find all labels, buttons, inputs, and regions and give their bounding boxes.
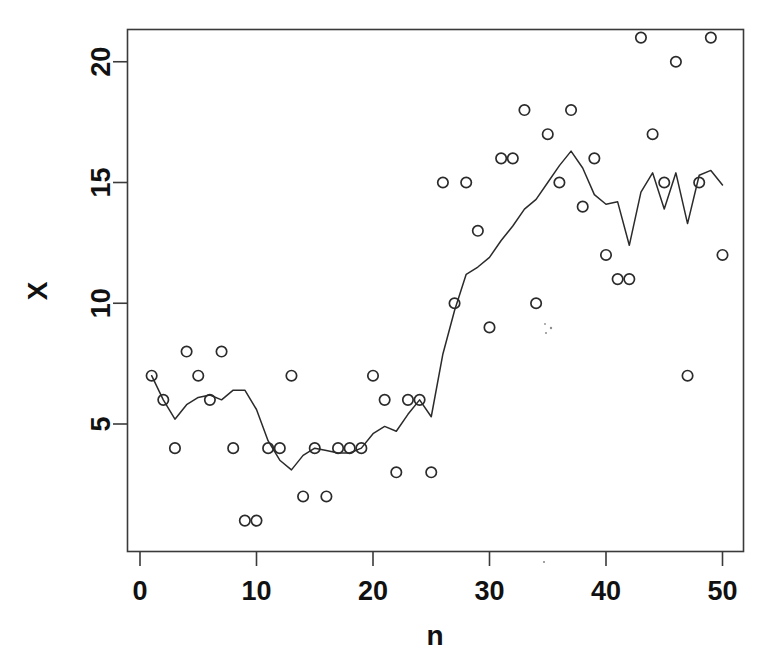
data-point bbox=[298, 491, 308, 501]
data-point bbox=[240, 515, 250, 525]
data-point bbox=[659, 177, 669, 187]
data-point bbox=[391, 467, 401, 477]
x-tick-label-40: 40 bbox=[591, 576, 621, 606]
data-point bbox=[484, 322, 494, 332]
data-point bbox=[193, 371, 203, 381]
data-point bbox=[181, 346, 191, 356]
data-point bbox=[578, 201, 588, 211]
data-point bbox=[554, 177, 564, 187]
y-tick-label-15: 15 bbox=[86, 167, 116, 197]
data-point bbox=[601, 250, 611, 260]
data-point bbox=[368, 371, 378, 381]
y-tick-label-10: 10 bbox=[86, 288, 116, 318]
data-point bbox=[461, 177, 471, 187]
data-point bbox=[589, 153, 599, 163]
data-point bbox=[694, 177, 704, 187]
y-axis-tick-labels: 5101520 bbox=[86, 47, 116, 432]
data-point bbox=[345, 443, 355, 453]
data-point bbox=[216, 346, 226, 356]
data-point bbox=[566, 105, 576, 115]
data-point bbox=[636, 32, 646, 42]
data-point bbox=[671, 57, 681, 67]
data-point bbox=[612, 274, 622, 284]
scan-speck bbox=[550, 327, 552, 329]
data-point bbox=[333, 443, 343, 453]
y-axis-ticks bbox=[113, 62, 128, 424]
x-tick-label-10: 10 bbox=[241, 576, 271, 606]
data-point bbox=[473, 226, 483, 236]
data-point bbox=[321, 491, 331, 501]
data-point bbox=[531, 298, 541, 308]
x-axis-title: n bbox=[426, 620, 443, 651]
y-tick-label-5: 5 bbox=[86, 416, 116, 431]
data-point bbox=[251, 515, 261, 525]
data-point bbox=[508, 153, 518, 163]
data-point bbox=[624, 274, 634, 284]
scan-speck bbox=[543, 561, 545, 563]
data-point bbox=[205, 395, 215, 405]
data-point bbox=[682, 371, 692, 381]
data-point bbox=[403, 395, 413, 405]
data-point bbox=[647, 129, 657, 139]
data-point bbox=[228, 443, 238, 453]
y-axis-title: X bbox=[22, 281, 53, 300]
plot-frame bbox=[128, 30, 744, 552]
chart-figure: 01020304050 5101520 n X bbox=[0, 0, 778, 663]
data-point bbox=[438, 177, 448, 187]
data-point bbox=[543, 129, 553, 139]
smoothed-trend-line bbox=[152, 151, 723, 470]
data-point bbox=[496, 153, 506, 163]
scan-speck bbox=[545, 332, 547, 334]
data-point bbox=[449, 298, 459, 308]
y-tick-label-20: 20 bbox=[86, 47, 116, 77]
x-tick-label-30: 30 bbox=[474, 576, 504, 606]
data-point bbox=[379, 395, 389, 405]
scatter-plot-svg: 01020304050 5101520 n X bbox=[0, 0, 778, 663]
data-point bbox=[286, 371, 296, 381]
data-point bbox=[717, 250, 727, 260]
scan-speck bbox=[544, 323, 546, 325]
data-point bbox=[426, 467, 436, 477]
x-tick-label-20: 20 bbox=[358, 576, 388, 606]
scatter-markers bbox=[146, 32, 727, 525]
x-tick-label-50: 50 bbox=[707, 576, 737, 606]
x-axis-ticks bbox=[140, 552, 723, 567]
data-point bbox=[275, 443, 285, 453]
data-point bbox=[706, 32, 716, 42]
data-point bbox=[519, 105, 529, 115]
x-axis-tick-labels: 01020304050 bbox=[132, 576, 737, 606]
data-point bbox=[170, 443, 180, 453]
x-tick-label-0: 0 bbox=[132, 576, 147, 606]
